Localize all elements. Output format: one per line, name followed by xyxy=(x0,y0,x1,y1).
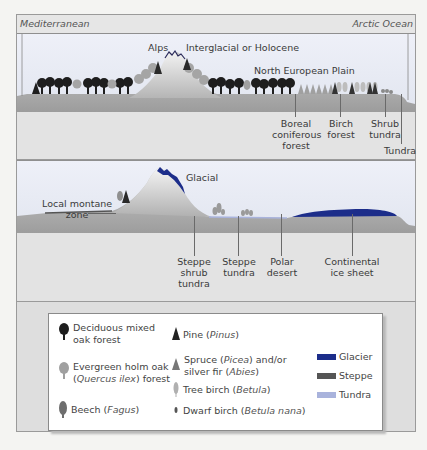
montane-leader xyxy=(88,213,116,214)
north-european-plain-label: North European Plain xyxy=(254,65,355,76)
mediterranean-label: Mediterranean xyxy=(20,18,90,29)
beech-icon xyxy=(58,400,68,418)
legend-deciduous-oak: Deciduous mixed oak forest xyxy=(73,322,155,345)
tundra-swatch xyxy=(317,392,336,398)
dwarf-birch-icon xyxy=(174,407,178,413)
spruce-icon xyxy=(171,358,181,371)
legend-tree-birch: Tree birch (Betula) xyxy=(183,384,270,396)
interglacial-title: Interglacial or Holocene xyxy=(186,42,299,53)
shrub-tundra-leader xyxy=(385,94,386,117)
glacial-title: Glacial xyxy=(186,172,218,183)
oak-trees-left xyxy=(32,77,133,94)
legend-dwarf-birch: Dwarf birch (Betula nana) xyxy=(183,405,306,417)
montane-zone-label: Local montane zone xyxy=(42,198,112,220)
steppe-swatch xyxy=(317,373,336,379)
deciduous-oak-icon xyxy=(58,322,70,340)
arctic-ocean-label: Arctic Ocean xyxy=(352,18,413,29)
zone-label-boreal: Boreal coniferous forest xyxy=(272,118,320,151)
legend-holm-oak: Evergreen holm oak (Quercus ilex) forest xyxy=(73,361,170,384)
boreal-leader xyxy=(295,94,296,117)
zone-label-steppe-tundra: Steppe tundra xyxy=(219,256,259,278)
holm-oak-icon xyxy=(58,361,70,379)
steppe-tundra-leader xyxy=(238,216,239,256)
legend-tundra: Tundra xyxy=(339,389,371,401)
legend-spruce: Spruce (Picea) and/or silver fir (Abies) xyxy=(184,354,287,377)
zone-label-tundra: Tundra xyxy=(384,145,416,156)
legend-glacier: Glacier xyxy=(339,351,372,363)
legend-box: Deciduous mixed oak forest Evergreen hol… xyxy=(48,313,383,431)
pine-icon xyxy=(171,327,181,341)
polar-desert-leader xyxy=(281,214,282,256)
zone-label-birch: Birch forest xyxy=(325,118,357,140)
tree-birch-icon xyxy=(173,382,179,397)
zone-label-steppe-shrub-tundra: Steppe shrub tundra xyxy=(174,256,214,289)
zone-label-polar-desert: Polar desert xyxy=(263,256,301,278)
alps-label: Alps xyxy=(148,42,168,53)
legend-pine: Pine (Pinus) xyxy=(183,329,239,341)
glacier-swatch xyxy=(317,354,336,360)
steppe-shrub-leader xyxy=(194,216,195,256)
birch-leader xyxy=(340,94,341,117)
zone-label-ice-sheet: Continental ice sheet xyxy=(320,256,384,278)
legend-beech: Beech (Fagus) xyxy=(71,404,139,416)
zone-label-shrub-tundra: Shrub tundra xyxy=(366,118,404,140)
ice-sheet-leader xyxy=(352,214,353,256)
legend-steppe: Steppe xyxy=(339,370,373,382)
